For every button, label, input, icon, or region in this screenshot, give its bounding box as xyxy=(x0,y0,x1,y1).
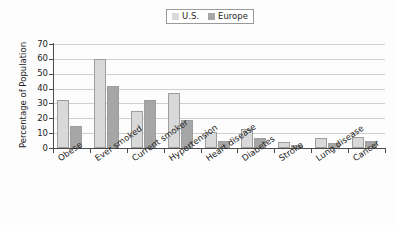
x-tick-mark xyxy=(201,149,202,153)
x-tick-mark xyxy=(274,149,275,153)
y-tick-label: 30 xyxy=(2,99,48,108)
y-axis-ticks: 706050403020100 xyxy=(0,0,48,225)
bar-group xyxy=(278,44,303,148)
bar-group xyxy=(94,44,119,148)
y-tick-label: 50 xyxy=(2,69,48,78)
x-tick-mark xyxy=(164,149,165,153)
bar-us xyxy=(57,100,69,148)
legend-entry-europe: Europe xyxy=(208,12,248,21)
bar-group xyxy=(57,44,82,148)
x-tick-mark xyxy=(237,149,238,153)
x-tick-mark xyxy=(311,149,312,153)
bar-us xyxy=(94,59,106,148)
y-tick-label: 40 xyxy=(2,84,48,93)
x-tick-mark xyxy=(385,149,386,153)
y-tick-label: 10 xyxy=(2,129,48,138)
legend-label-europe: Europe xyxy=(218,12,248,21)
legend-entry-us: U.S. xyxy=(172,12,199,21)
bar-group xyxy=(315,44,340,148)
y-tick-label: 20 xyxy=(2,114,48,123)
x-tick-mark xyxy=(53,149,54,153)
y-tick-label: 70 xyxy=(2,40,48,49)
legend-swatch-us xyxy=(172,13,179,20)
legend-label-us: U.S. xyxy=(182,12,199,21)
y-tick-label: 60 xyxy=(2,54,48,63)
chart-legend: U.S. Europe xyxy=(166,9,254,24)
x-tick-mark xyxy=(127,149,128,153)
x-tick-mark xyxy=(90,149,91,153)
y-tick-label: 0 xyxy=(2,144,48,153)
x-tick-mark xyxy=(348,149,349,153)
legend-swatch-europe xyxy=(208,13,215,20)
bar-chart: U.S. Europe Percentage of Population 706… xyxy=(0,0,397,225)
bars-layer xyxy=(53,44,385,148)
